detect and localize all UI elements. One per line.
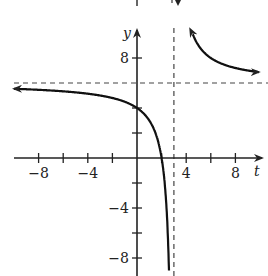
- curve-right-branch: [193, 34, 259, 72]
- cropped-top-remnant: [137, 0, 181, 6]
- y-tick-label: −8: [108, 250, 129, 266]
- function-graph: −8−4488−4−8 t y: [0, 0, 268, 276]
- x-tick-label: −4: [77, 165, 98, 181]
- axes: [14, 30, 262, 276]
- x-tick-label: 8: [231, 165, 240, 181]
- y-tick-label: 8: [120, 50, 129, 66]
- x-axis-label: t: [254, 163, 260, 179]
- y-axis-label: y: [122, 25, 132, 41]
- x-tick-label: 4: [182, 165, 191, 181]
- asymptotes: [14, 28, 268, 276]
- y-tick-label: −4: [108, 200, 129, 216]
- x-tick-label: −8: [28, 165, 49, 181]
